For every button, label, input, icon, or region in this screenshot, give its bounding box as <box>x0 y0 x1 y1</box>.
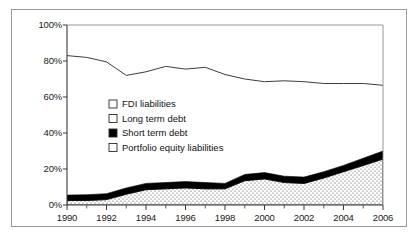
legend-label: Long term debt <box>122 113 186 124</box>
x-tick-marks-major <box>67 205 383 210</box>
legend-label: Short term debt <box>122 127 188 138</box>
y-tick-label: 60% <box>16 91 62 102</box>
x-tick-label: 2002 <box>282 212 326 223</box>
x-tick-label: 2004 <box>322 212 366 223</box>
y-tick-label: 40% <box>16 127 62 138</box>
legend-swatch <box>109 144 117 152</box>
chart-figure: FDI liabilitiesLong term debtShort term … <box>0 0 419 250</box>
x-tick-label: 1990 <box>45 212 89 223</box>
legend-swatch <box>109 100 117 108</box>
x-tick-label: 1998 <box>203 212 247 223</box>
legend-swatch <box>109 129 117 137</box>
legend-swatch <box>109 115 117 123</box>
legend-label: FDI liabilities <box>122 98 176 109</box>
x-tick-label: 2006 <box>361 212 405 223</box>
x-tick-label: 2000 <box>243 212 287 223</box>
legend-label: Portfolio equity liabilities <box>122 142 224 153</box>
y-tick-marks <box>63 25 67 205</box>
y-tick-label: 20% <box>16 163 62 174</box>
x-tick-label: 1992 <box>85 212 129 223</box>
y-tick-label: 80% <box>16 55 62 66</box>
y-tick-label: 100% <box>16 19 62 30</box>
y-tick-label: 0% <box>16 199 62 210</box>
x-tick-label: 1996 <box>164 212 208 223</box>
x-tick-label: 1994 <box>124 212 168 223</box>
